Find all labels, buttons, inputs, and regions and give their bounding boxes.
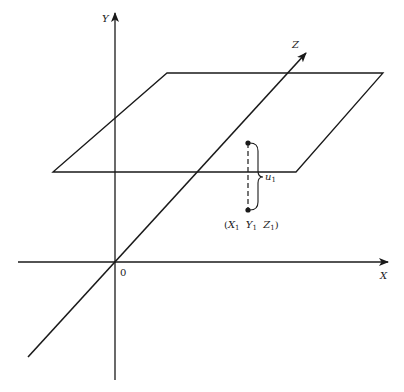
point-coordinates-label: (X1 Y1 Z1)	[224, 220, 279, 232]
diagram-svg	[0, 0, 404, 392]
brace-label-sub: 1	[271, 176, 275, 184]
diagram-canvas: Y Z X 0 u1 (X1 Y1 Z1)	[0, 0, 404, 392]
lower-point	[245, 207, 250, 212]
y-axis-label: Y	[102, 14, 109, 24]
paren-close: )	[275, 219, 279, 230]
x-axis-label: X	[380, 271, 387, 281]
origin-label: 0	[120, 268, 126, 278]
coord-x-sub: 1	[235, 224, 239, 232]
coord-x-name: X	[228, 219, 235, 230]
coord-y-sub: 1	[252, 224, 256, 232]
plane	[53, 73, 383, 172]
z-axis-label: Z	[292, 40, 299, 50]
z-axis	[28, 53, 306, 357]
brace-label: u1	[265, 172, 276, 184]
upper-point	[245, 140, 250, 145]
brace	[250, 143, 263, 210]
